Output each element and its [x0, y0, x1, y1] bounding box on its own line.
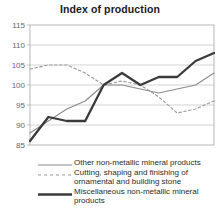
svg-text:90: 90 [16, 121, 25, 130]
data-series-group [30, 53, 214, 141]
plot-area: 859095100105110115 199619982000200220042… [0, 18, 220, 148]
svg-text:105: 105 [12, 61, 26, 70]
dashed-line-icon [38, 168, 74, 177]
thin-solid-line-icon [38, 158, 74, 167]
chart-legend: Other non-metallic mineral products Cutt… [0, 158, 220, 206]
legend-item-label: Miscellaneous non-metallic mineral produ… [74, 187, 220, 206]
legend-item-label: Other non-metallic mineral products [74, 158, 220, 168]
series-line [30, 53, 214, 141]
y-axis-tick-labels: 859095100105110115 [12, 21, 26, 148]
svg-text:100: 100 [12, 81, 26, 90]
svg-text:95: 95 [16, 101, 25, 110]
svg-text:115: 115 [12, 21, 25, 30]
chart-title: Index of production [0, 3, 220, 15]
line-chart-svg: 859095100105110115 199619982000200220042… [0, 18, 220, 148]
legend-item: Miscellaneous non-metallic mineral produ… [0, 187, 220, 206]
legend-item: Cutting, shaping and finishing of orname… [0, 168, 220, 187]
svg-text:85: 85 [16, 141, 25, 148]
legend-item: Other non-metallic mineral products [0, 158, 220, 168]
thick-solid-line-icon [38, 187, 74, 197]
series-line [30, 73, 214, 133]
chart-container: Index of production 859095100105110115 1… [0, 0, 220, 222]
legend-item-label: Cutting, shaping and finishing of orname… [74, 168, 220, 187]
svg-text:110: 110 [12, 41, 25, 50]
